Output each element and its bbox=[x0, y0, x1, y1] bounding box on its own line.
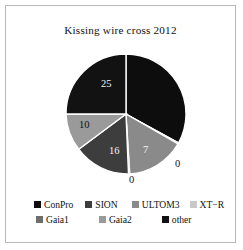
legend-item-gaia1[interactable]: Gaia1 bbox=[36, 214, 69, 225]
chart-title: Kissing wire cross 2012 bbox=[6, 24, 235, 36]
legend-row-2: Gaia1 Gaia2 other bbox=[20, 212, 225, 227]
legend-item-other[interactable]: other bbox=[162, 214, 192, 225]
legend-label-xt-r: XT−R bbox=[200, 199, 225, 210]
pie-svg bbox=[65, 53, 187, 175]
pie-label-xt-r: 0 bbox=[175, 159, 180, 170]
legend-item-ultom3[interactable]: ULTOM3 bbox=[132, 199, 180, 210]
legend-label-sion: SION bbox=[95, 199, 117, 210]
pie-label-gaia1: 0 bbox=[129, 175, 134, 186]
legend-swatch-gaia2 bbox=[99, 216, 106, 223]
legend-row-1: ConPro SION ULTOM3 XT−R bbox=[20, 197, 225, 212]
legend-item-conpro[interactable]: ConPro bbox=[34, 199, 73, 210]
legend-label-conpro: ConPro bbox=[44, 199, 73, 210]
pie-label-other: 25 bbox=[101, 79, 112, 90]
figure-frame: Kissing wire cross 2012 25 10 16 7 0 0 bbox=[5, 5, 236, 243]
legend-swatch-xt-r bbox=[190, 201, 197, 208]
legend-swatch-other bbox=[162, 216, 169, 223]
legend-label-other: other bbox=[172, 214, 192, 225]
pie-label-gaia2: 10 bbox=[79, 120, 90, 131]
chart-legend: ConPro SION ULTOM3 XT−R Gaia1 bbox=[20, 197, 225, 227]
legend-item-gaia2[interactable]: Gaia2 bbox=[99, 214, 132, 225]
pie-chart: 25 10 16 7 0 0 bbox=[65, 53, 187, 175]
pie-label-ultom3: 7 bbox=[143, 145, 148, 156]
legend-label-gaia2: Gaia2 bbox=[109, 214, 132, 225]
legend-swatch-ultom3 bbox=[132, 201, 139, 208]
legend-swatch-sion bbox=[85, 201, 92, 208]
legend-item-xt-r[interactable]: XT−R bbox=[190, 199, 225, 210]
legend-item-sion[interactable]: SION bbox=[85, 199, 117, 210]
legend-swatch-conpro bbox=[34, 201, 41, 208]
legend-label-gaia1: Gaia1 bbox=[46, 214, 69, 225]
legend-label-ultom3: ULTOM3 bbox=[142, 199, 180, 210]
pie-label-sion: 16 bbox=[109, 146, 120, 157]
pie-slice-other[interactable] bbox=[66, 54, 126, 114]
legend-swatch-gaia1 bbox=[36, 216, 43, 223]
